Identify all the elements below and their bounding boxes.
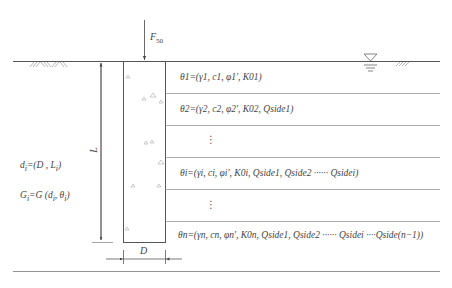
- pile: [124, 62, 166, 243]
- diagram-canvas: [0, 0, 452, 288]
- water-table-icon: [364, 54, 377, 71]
- diameter-label: D: [140, 245, 147, 257]
- function-equation: Gi=G (di, θi): [20, 189, 70, 205]
- load-label: F50: [150, 31, 163, 47]
- layer-i-parameters: θi=(γi, ci, φi′, K0i, Qside1, Qside2 ···…: [180, 167, 358, 179]
- layer-ellipsis-1: ⋮: [206, 138, 216, 142]
- layer-ellipsis-2: ⋮: [206, 203, 216, 207]
- ground-hatch-left-icon: [30, 62, 67, 67]
- layer-n-parameters: θn=(γn, cn, φn′, K0n, Qside1, Qside2 ···…: [178, 229, 423, 241]
- geometry-equation: di=(D , Li): [20, 159, 61, 175]
- ground-hatch-right-icon: [396, 62, 409, 66]
- layer-2-parameters: θ2=(γ2, c2, φ2′, K02, Qside1): [180, 103, 293, 115]
- layer-1-parameters: θ1=(γ1, c1, φ1′, K01): [180, 71, 262, 83]
- length-label: L: [88, 147, 100, 153]
